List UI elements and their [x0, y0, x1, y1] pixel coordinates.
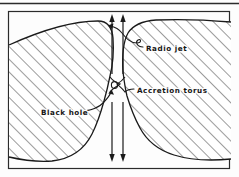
black-hole-accretion-torus-diagram: Radio jet Accretion torus Black hole	[0, 0, 239, 177]
black-hole-waist	[110, 77, 125, 92]
figure-container: Radio jet Accretion torus Black hole	[0, 0, 239, 177]
label-accretion-torus: Accretion torus	[137, 86, 208, 95]
label-radio-jet: Radio jet	[146, 44, 187, 53]
label-black-hole: Black hole	[41, 108, 88, 117]
jet-arrow-down-right	[120, 102, 125, 162]
radio-jet-arrows	[109, 14, 125, 162]
jet-arrow-down-left	[109, 102, 114, 162]
